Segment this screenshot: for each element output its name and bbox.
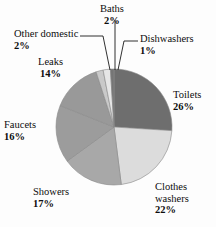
pie-slice-clothes-washers [114,127,172,185]
slice-label-showers-name: Showers [33,186,69,198]
slice-label-faucets-name: Faucets [4,119,36,131]
slice-label-clothes-washers-name2: washers [155,193,189,205]
slice-label-clothes-washers-pct: 22% [155,204,189,216]
slice-label-showers-pct: 17% [33,198,69,210]
slice-label-leaks: Leaks 14% [38,56,63,79]
pie-slices-group [56,69,172,185]
slice-label-dishwashers-pct: 1% [140,45,194,57]
slice-label-other-domestic: Other domestic 2% [14,28,78,51]
pie-chart-figure: Baths 2% Dishwashers 1% Other domestic 2… [0,0,216,227]
slice-label-dishwashers: Dishwashers 1% [140,33,194,56]
slice-label-baths-name: Baths [100,3,124,15]
leader-line-dishwashers [118,41,138,70]
slice-label-other-domestic-name: Other domestic [14,28,78,40]
slice-label-toilets-name: Toilets [173,89,201,101]
slice-label-faucets: Faucets 16% [4,119,36,142]
slice-label-toilets: Toilets 26% [173,89,201,112]
slice-label-clothes-washers-name: Clothes [155,181,189,193]
pie-slice-toilets [114,69,172,131]
slice-label-other-domestic-pct: 2% [14,40,78,52]
leader-line-other-domestic [80,36,110,70]
slice-label-toilets-pct: 26% [173,101,201,113]
slice-label-showers: Showers 17% [33,186,69,209]
slice-label-baths-pct: 2% [100,15,124,27]
slice-label-dishwashers-name: Dishwashers [140,33,194,45]
slice-label-leaks-pct: 14% [38,68,63,80]
leader-lines-group [80,20,138,70]
slice-label-clothes-washers: Clothes washers 22% [155,181,189,216]
slice-label-baths: Baths 2% [100,3,124,26]
slice-label-leaks-name: Leaks [38,56,63,68]
slice-label-faucets-pct: 16% [4,131,36,143]
